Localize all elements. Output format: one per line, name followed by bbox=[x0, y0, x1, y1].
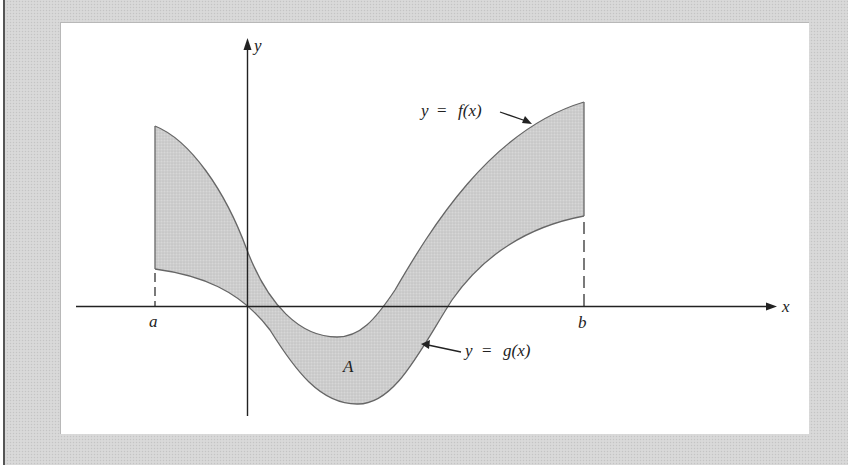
svg-text:y: y bbox=[419, 101, 429, 120]
f-curve-annotation: y = f(x) bbox=[419, 101, 532, 124]
f-pointer-arrow-icon bbox=[522, 116, 532, 124]
svg-text:=: = bbox=[482, 341, 492, 360]
bound-a-label: a bbox=[149, 312, 158, 331]
y-axis-arrow-icon bbox=[244, 38, 252, 50]
bound-b-label: b bbox=[578, 313, 587, 332]
area-between-curves-diagram: y x a b A y = f(x) y = g(x) bbox=[0, 0, 848, 470]
x-axis-arrow-icon bbox=[766, 303, 777, 311]
svg-text:y: y bbox=[463, 341, 473, 360]
svg-text:g(x): g(x) bbox=[503, 341, 531, 360]
x-axis-label: x bbox=[781, 297, 790, 316]
region-label: A bbox=[342, 357, 354, 376]
svg-text:=: = bbox=[437, 101, 447, 120]
svg-text:f(x): f(x) bbox=[458, 101, 482, 120]
g-curve-annotation: y = g(x) bbox=[421, 340, 531, 360]
y-axis-label: y bbox=[252, 36, 262, 55]
